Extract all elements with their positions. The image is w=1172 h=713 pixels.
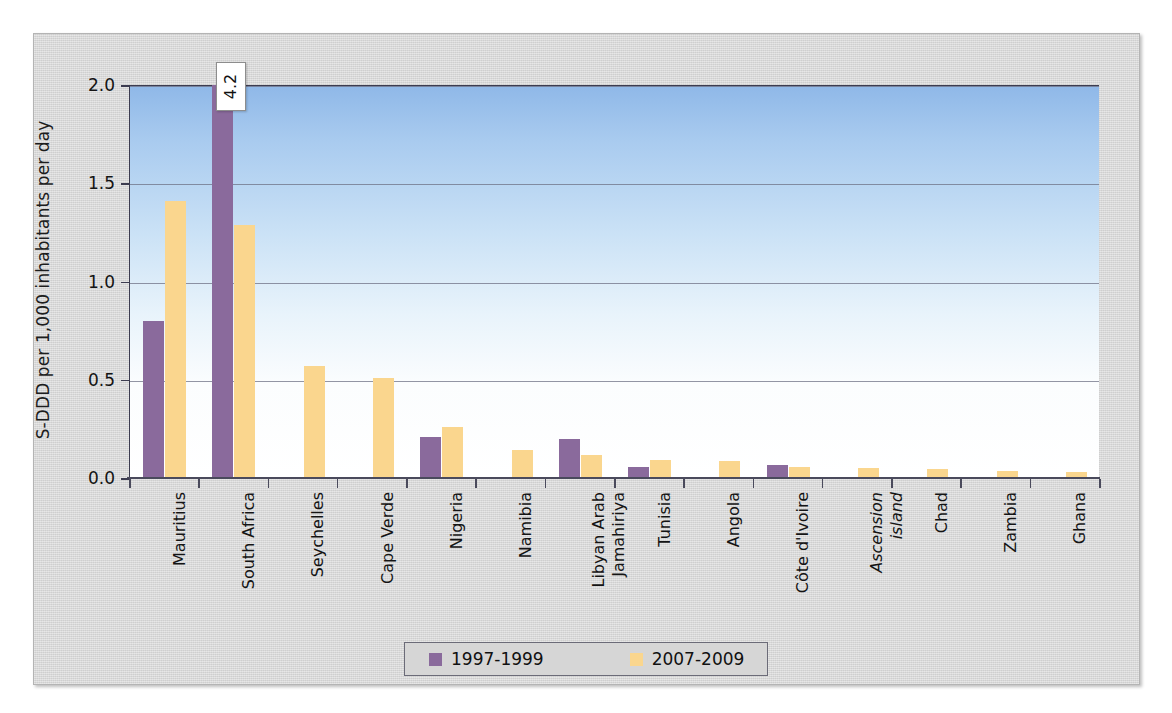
x-tick-mark [614, 479, 616, 488]
x-tick-mark [198, 479, 200, 488]
data-label-text: 4.2 [221, 74, 240, 99]
bar-group [338, 86, 407, 478]
bar[interactable] [304, 366, 325, 478]
bar-group [199, 86, 268, 478]
y-axis-title: S-DDD per 1,000 inhabitants per day [30, 80, 56, 480]
bar[interactable] [212, 85, 233, 478]
bar-group [476, 86, 545, 478]
chart-page: S-DDD per 1,000 inhabitants per day 0.00… [0, 0, 1172, 713]
bar-group [615, 86, 684, 478]
bar[interactable] [442, 427, 463, 478]
x-tick-label: South Africa [239, 492, 258, 589]
bar-group [546, 86, 615, 478]
x-tick-mark [960, 479, 962, 488]
x-tick-mark [1030, 479, 1032, 488]
bar[interactable] [143, 321, 164, 478]
x-tick-mark [268, 479, 270, 488]
legend-item-2007-2009[interactable]: 2007-2009 [630, 649, 745, 669]
x-tick-mark [129, 479, 131, 488]
x-tick-mark [337, 479, 339, 488]
x-tick-label: Ghana [1070, 492, 1089, 544]
x-tick-label: Namibia [516, 492, 535, 558]
bar[interactable] [581, 455, 602, 478]
x-tick-mark [1099, 479, 1101, 488]
legend-label-series-0: 1997-1999 [451, 649, 544, 669]
y-tick-label: 0.5 [59, 370, 115, 390]
bar-group [754, 86, 823, 478]
legend-item-1997-1999[interactable]: 1997-1999 [429, 649, 544, 669]
x-tick-label: Angola [724, 492, 743, 547]
bar-group [684, 86, 753, 478]
x-tick-label: Côte d'Ivoire [793, 492, 812, 593]
x-tick-label: Seychelles [308, 492, 327, 577]
x-tick-mark [683, 479, 685, 488]
y-tick-label: 0.0 [59, 468, 115, 488]
x-tick-label: Tunisia [655, 492, 674, 547]
y-tick-mark [121, 478, 129, 480]
x-tick-label: Nigeria [447, 492, 466, 549]
x-tick-label: Libyan ArabJamahiriya [589, 492, 629, 588]
x-tick-label: Ascensionisland [867, 492, 907, 573]
legend-label-series-1: 2007-2009 [652, 649, 745, 669]
x-tick-label: Mauritius [170, 492, 189, 566]
x-tick-label: Zambia [1001, 492, 1020, 553]
bar-group [269, 86, 338, 478]
x-tick-mark [891, 479, 893, 488]
bar[interactable] [512, 450, 533, 478]
bar-group [407, 86, 476, 478]
bar-group [892, 86, 961, 478]
bar-group [961, 86, 1030, 478]
y-tick-mark [121, 85, 129, 87]
bar[interactable] [650, 460, 671, 478]
y-tick-mark [121, 380, 129, 382]
y-tick-label: 1.0 [59, 272, 115, 292]
x-tick-mark [753, 479, 755, 488]
data-label-south-africa: 4.2 [216, 62, 246, 111]
legend-swatch-icon-series-1 [630, 653, 643, 666]
plot-area [129, 85, 1099, 478]
x-tick-label: Chad [932, 492, 951, 533]
x-tick-mark [545, 479, 547, 488]
x-tick-mark [822, 479, 824, 488]
chart-legend: 1997-1999 2007-2009 [404, 642, 768, 676]
bar[interactable] [719, 461, 740, 478]
y-tick-mark [121, 183, 129, 185]
bar[interactable] [234, 225, 255, 478]
y-tick-label: 2.0 [59, 75, 115, 95]
bar[interactable] [373, 378, 394, 478]
x-tick-mark [475, 479, 477, 488]
bar[interactable] [420, 437, 441, 478]
bar[interactable] [165, 201, 186, 478]
y-tick-mark [121, 282, 129, 284]
bar[interactable] [559, 439, 580, 478]
legend-swatch-icon-series-0 [429, 653, 442, 666]
x-tick-mark [406, 479, 408, 488]
y-tick-label: 1.5 [59, 173, 115, 193]
bar-group [823, 86, 892, 478]
x-tick-label: Cape Verde [378, 492, 397, 584]
bar-group [130, 86, 199, 478]
bar-group [1031, 86, 1100, 478]
